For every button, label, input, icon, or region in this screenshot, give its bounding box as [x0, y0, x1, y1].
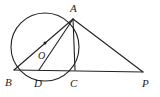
- point-label-D: D: [33, 77, 42, 89]
- point-label-B: B: [5, 76, 12, 88]
- geometry-figure: A B O D C P: [0, 0, 160, 97]
- segment-AP: [73, 19, 143, 72]
- geometry-canvas: A B O D C P: [0, 0, 160, 97]
- point-label-P: P: [141, 77, 149, 89]
- segment-BP: [14, 70, 143, 72]
- point-label-A: A: [69, 2, 77, 14]
- point-label-O: O: [38, 50, 45, 61]
- point-label-C: C: [70, 77, 78, 89]
- segment-AC: [73, 19, 75, 70]
- center-dot-icon: [44, 42, 47, 45]
